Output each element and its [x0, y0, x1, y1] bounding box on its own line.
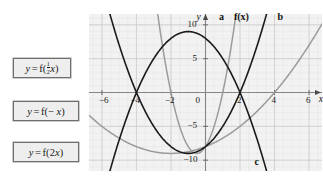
curve-label-c: c	[254, 156, 258, 167]
y-tick-label--10: −10	[184, 154, 198, 164]
fraction-denominator: 2	[47, 67, 50, 75]
function-open-paren: f(	[39, 63, 46, 74]
equals-sign: =	[33, 147, 42, 158]
x-axis-label: x	[319, 94, 323, 104]
answer-choice-f-neg-x[interactable]: y = f(− x )	[13, 101, 79, 121]
equals-sign: =	[32, 106, 41, 117]
answer-choice-double-expression: y = f(2 x )	[29, 147, 64, 158]
x-tick-label-0: 0	[196, 95, 201, 105]
x-tick-label--2: −2	[165, 95, 175, 105]
x-tick-label-2: 2	[237, 95, 242, 105]
y-axis-label: y	[197, 12, 201, 22]
close-paren: )	[55, 63, 59, 74]
fraction-one-half: 1 2	[47, 61, 50, 75]
y-tick-label-5: 5	[193, 53, 198, 63]
y-tick-label--5: −5	[188, 120, 198, 130]
equals-sign: =	[30, 63, 39, 74]
function-open-paren-neg: f(−	[41, 106, 56, 117]
x-tick-label-6: 6	[306, 95, 311, 105]
answer-choice-f-half-x[interactable]: y = f( 1 2 x )	[13, 58, 71, 78]
function-open-paren-two: f(2	[42, 147, 55, 158]
x-tick-label--6: −6	[99, 95, 109, 105]
close-paren: )	[60, 147, 64, 158]
curve-label-b: b	[278, 11, 284, 22]
x-tick-label--4: −4	[130, 95, 140, 105]
close-paren: )	[61, 106, 65, 117]
answer-choice-neg-expression: y = f(− x )	[27, 106, 65, 117]
answer-choice-half-expression: y = f( 1 2 x )	[25, 61, 58, 75]
x-tick-label-4: 4	[272, 95, 277, 105]
graph-plot-area	[89, 14, 322, 171]
graph-svg	[89, 14, 322, 171]
y-tick-label-10: 10	[188, 19, 197, 29]
curve-label-fx: f(x)	[234, 11, 249, 22]
answer-choice-f-2x[interactable]: y = f(2 x )	[13, 142, 79, 162]
curve-label-a: a	[219, 11, 224, 22]
